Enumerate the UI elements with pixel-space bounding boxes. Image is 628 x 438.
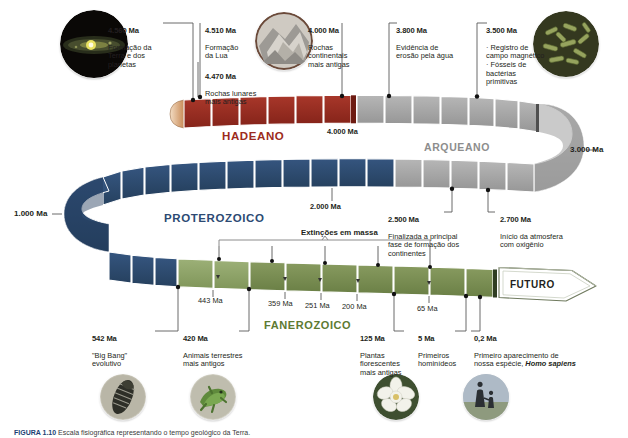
extinctions-label: Extinções em massa [301,228,378,237]
annotation-542ma-age: 542 Ma [92,335,154,344]
annotation-4560ma-age: 4.560 Ma [108,27,170,36]
band-tick-2000ma: 2.000 Ma [310,202,341,211]
annotation-542ma-desc: "Big Bang" evolutivo [92,352,154,369]
figure-caption-rest: Escala fisiográfica representando o temp… [56,429,250,436]
figure-caption-label: FIGURA 1.10 [14,429,56,436]
annotation-4510ma-desc: Formação da Lua [205,44,271,61]
era-label-fanerozoico: FANEROZOICO [264,319,351,331]
annotation-4510ma: 4.510 Ma Formação da Lua 4.470 Ma Rochas… [205,18,271,116]
annotation-02ma: 0,2 Ma Primeiro aparecimento de nossa es… [474,326,624,378]
era-label-hadeano: HADEANO [222,130,284,142]
annotation-02ma-species: Homo sapiens [525,359,576,368]
annotation-2500ma: 2.500 Ma Finalizada a principal fase de … [388,207,482,267]
annotation-125ma-desc: Plantas florescentes mais antigas [360,352,410,378]
band-tick-65ma: 65 Ma [417,304,438,313]
scale-mark-3000ma: 3.000 Ma [570,145,603,154]
annotation-420ma-age: 420 Ma [183,335,253,344]
annotation-4560ma-desc: Formação da Terra e dos planetas [108,44,170,70]
photo-humans [463,374,509,420]
annotation-420ma: 420 Ma Animais terrestres mais antigos [183,326,253,378]
era-label-arqueano: ARQUEANO [424,141,490,153]
annotation-2700ma-desc: Início da atmosfera com oxigênio [500,233,592,250]
annotation-125ma-age: 125 Ma [360,335,410,344]
annotation-2700ma-age: 2.700 Ma [500,216,592,225]
photo-amphibian [190,374,236,420]
annotation-5ma: 5 Ma Primeiros hominídeos [418,326,462,378]
annotation-2500ma-age: 2.500 Ma [388,216,482,225]
annotation-542ma: 542 Ma "Big Bang" evolutivo [92,326,154,378]
annotation-02ma-desc: Primeiro aparecimento de nossa espécie, … [474,352,624,369]
annotation-3500ma: 3.500 Ma · Registro de campo magnético ·… [486,18,556,95]
band-tick-359ma: 359 Ma [268,299,293,308]
annotation-5ma-age: 5 Ma [418,335,462,344]
annotation-4000ma-desc: Rochas continentais mais antigas [308,44,368,70]
annotation-3800ma-desc: Evidência de erosão pela água [396,44,468,61]
era-label-proterozoico: PROTEROZOICO [164,212,264,224]
annotation-3500ma-age: 3.500 Ma [486,27,556,36]
ribbon-row-fanerozoico [109,252,596,301]
band-tick-443ma: 443 Ma [198,296,223,305]
annotation-02ma-age: 0,2 Ma [474,335,624,344]
annotation-4470ma-desc: Rochas lunares mais antigas [205,90,271,107]
band-tick-200ma: 200 Ma [342,302,367,311]
annotation-5ma-desc: Primeiros hominídeos [418,352,462,369]
annotation-4000ma: 4.000 Ma Rochas continentais mais antiga… [308,18,368,78]
photo-trilobite [100,374,146,420]
annotation-4510ma-age: 4.510 Ma [205,27,271,36]
annotation-420ma-desc: Animais terrestres mais antigos [183,352,253,369]
annotation-3800ma-age: 3.800 Ma [396,27,468,36]
scale-mark-1000ma: 1.000 Ma [14,209,47,218]
band-tick-251ma: 251 Ma [305,301,330,310]
annotation-2700ma: 2.700 Ma Início da atmosfera com oxigêni… [500,207,592,259]
annotation-4000ma-age: 4.000 Ma [308,27,368,36]
annotation-2500ma-desc: Finalizada a principal fase de formação … [388,233,482,259]
annotation-125ma: 125 Ma Plantas florescentes mais antigas [360,326,410,386]
annotation-3800ma: 3.800 Ma Evidência de erosão pela água [396,18,468,70]
geologic-timeline-figure: 4.560 Ma Formação da Terra e dos planeta… [0,0,628,438]
annotation-3500ma-desc: · Registro de campo magnético · Fósseis … [486,44,556,87]
annotation-4560ma: 4.560 Ma Formação da Terra e dos planeta… [108,18,170,78]
futuro-label: FUTURO [510,279,555,290]
annotation-4470ma-age: 4.470 Ma [205,73,271,82]
band-tick-4000ma: 4.000 Ma [327,127,358,136]
figure-caption: FIGURA 1.10 Escala fisiográfica represen… [14,429,250,436]
